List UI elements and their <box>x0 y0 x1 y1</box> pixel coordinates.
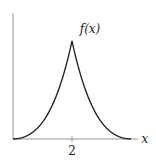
function-label: f(x) <box>79 22 101 36</box>
x-tick-label: 2 <box>68 144 76 158</box>
curve <box>13 41 131 139</box>
chart: 2 x f(x) <box>0 0 156 161</box>
x-axis-label: x <box>142 132 149 146</box>
